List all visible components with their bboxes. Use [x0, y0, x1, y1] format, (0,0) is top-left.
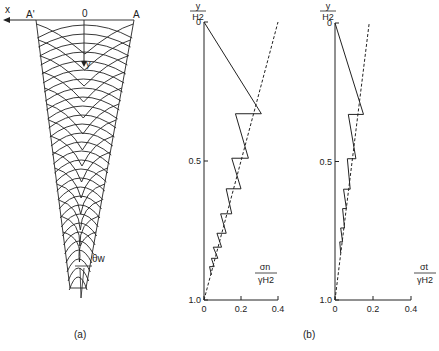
characteristic-arc	[53, 151, 109, 164]
characteristic-curve	[63, 232, 80, 262]
x-tick-label: 0	[332, 304, 337, 314]
shear-stress-chart: 00.20.400.51.0yH2σtγH2	[319, 1, 436, 314]
panel-b-label: (b)	[303, 329, 315, 340]
series-stress-solid	[335, 23, 364, 253]
x-tick-label: 0.4	[272, 304, 285, 314]
characteristic-arc	[43, 70, 124, 83]
x-tick-label: 0.2	[235, 304, 248, 314]
characteristic-arc	[58, 187, 103, 200]
figure: x A' 0 A y θw (a) 00.20.400.51.0yH2σnγH2…	[0, 0, 439, 351]
x-label-numerator: σn	[260, 262, 271, 272]
characteristic-arc	[51, 133, 113, 146]
y-label-denominator: H2	[192, 12, 204, 22]
x-tick-label: 0.4	[405, 304, 418, 314]
x-label-numerator: σt	[420, 262, 429, 272]
characteristic-curve	[39, 40, 85, 70]
characteristic-curve	[83, 88, 122, 118]
y-axis-label: y	[86, 59, 91, 69]
characteristic-arc	[68, 268, 89, 281]
characteristic-arc	[37, 25, 132, 38]
y-tick-label: 0.5	[188, 156, 201, 166]
x-tick-label: 0	[201, 304, 206, 314]
normal-stress-chart: 00.20.400.51.0yH2σnγH2	[188, 1, 284, 314]
y-tick-label: 1.0	[188, 295, 201, 305]
series-stress-solid	[204, 22, 261, 275]
panel-a: x A' 0 A y θw (a)	[3, 4, 140, 340]
origin-label: 0	[82, 8, 88, 19]
characteristic-arc	[46, 97, 119, 110]
series-stress-dashed	[335, 23, 369, 300]
panel-a-label: (a)	[74, 329, 86, 340]
y-tick-label: 0.5	[319, 157, 332, 167]
characteristic-arc	[45, 88, 121, 101]
x-label-denominator: γH2	[258, 275, 274, 285]
x-axis-label: x	[5, 4, 10, 15]
wall-angle-label: θw	[92, 253, 106, 264]
x-label-denominator: γH2	[417, 275, 433, 285]
x-tick-label: 0.2	[367, 304, 380, 314]
corner-label-a-prime: A'	[26, 9, 35, 20]
characteristic-arc	[50, 124, 115, 137]
arrow-left-icon	[3, 17, 10, 23]
characteristic-arc	[67, 259, 90, 272]
y-label-numerator: y	[196, 1, 201, 11]
hopper-stress-field	[36, 20, 134, 290]
y-tick-label: 1.0	[319, 295, 332, 305]
y-label-denominator: H2	[322, 12, 334, 22]
y-label-numerator: y	[326, 1, 331, 11]
corner-label-a: A	[133, 9, 140, 20]
characteristic-arc	[38, 34, 130, 47]
